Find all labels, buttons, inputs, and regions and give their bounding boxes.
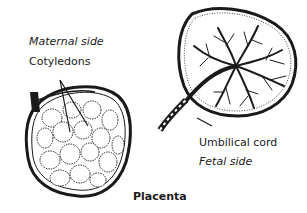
fetal-side-label: Fetal side	[199, 155, 252, 168]
cotyledons-label: Cotyledons	[29, 55, 90, 68]
maternal-side-label: Maternal side	[29, 35, 104, 48]
maternal-side-placenta	[26, 87, 130, 196]
placenta-illustration	[0, 0, 307, 213]
umbilical-cord-label: Umbilical cord	[199, 136, 277, 149]
fetal-side-placenta	[160, 9, 296, 130]
umbilical-cord-pointer-line	[197, 118, 212, 126]
diagram-title: Placenta	[133, 190, 187, 203]
